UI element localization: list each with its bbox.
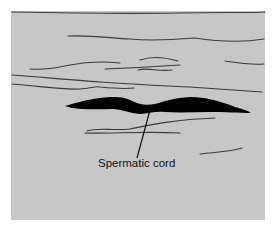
tissue-line bbox=[138, 69, 172, 70]
tissue-line bbox=[12, 84, 134, 89]
label-leader-line bbox=[137, 110, 150, 158]
tissue-line bbox=[12, 12, 265, 13]
tissue-line bbox=[30, 62, 120, 69]
spermatic-cord-structure bbox=[65, 97, 250, 114]
tissue-line bbox=[225, 61, 264, 64]
tissue-line bbox=[68, 36, 264, 41]
tissue-line bbox=[87, 118, 215, 131]
tissue-line bbox=[105, 65, 180, 69]
diagram-drawing bbox=[0, 0, 272, 227]
tissue-line bbox=[12, 75, 262, 92]
tissue-line bbox=[200, 148, 242, 154]
tissue-line bbox=[85, 132, 180, 133]
spermatic-cord-label: Spermatic cord bbox=[98, 157, 175, 169]
tissue-line bbox=[140, 58, 178, 62]
